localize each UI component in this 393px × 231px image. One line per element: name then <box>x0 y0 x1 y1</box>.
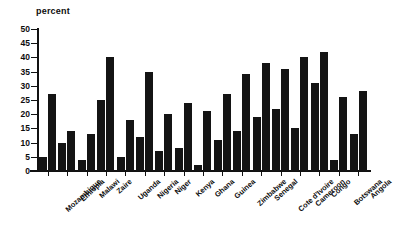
x-tick-mark <box>261 172 262 176</box>
x-tick-label: Kenya <box>193 177 216 199</box>
y-tick-label: 10 <box>0 139 30 147</box>
bar <box>48 94 56 171</box>
x-tick-mark <box>242 172 243 176</box>
bar <box>339 97 347 171</box>
bar <box>58 143 66 171</box>
y-tick-mark <box>31 72 37 73</box>
bar-group <box>330 29 349 171</box>
bar <box>78 160 86 171</box>
x-tick-mark <box>222 172 223 176</box>
bar <box>233 131 241 171</box>
bar-group <box>214 29 233 171</box>
bar <box>164 114 172 171</box>
plot-area <box>38 29 368 171</box>
y-tick-mark <box>31 86 37 87</box>
y-tick-label: 25 <box>0 96 30 104</box>
bar-group <box>175 29 194 171</box>
x-tick-label: Guinea <box>233 177 258 200</box>
bar-group <box>272 29 291 171</box>
bar <box>145 72 153 171</box>
bar <box>203 111 211 171</box>
bar-group <box>233 29 252 171</box>
bar <box>136 137 144 171</box>
x-tick-mark <box>145 172 146 176</box>
y-tick-label: 15 <box>0 124 30 132</box>
bar <box>39 157 47 171</box>
bar <box>97 100 105 171</box>
x-tick-mark <box>67 172 68 176</box>
y-tick-mark <box>31 171 37 172</box>
bar <box>320 52 328 171</box>
y-tick-label: 50 <box>0 25 30 33</box>
x-tick-label: Ghana <box>213 177 236 199</box>
y-tick-mark <box>31 29 37 30</box>
bar <box>359 91 367 171</box>
y-tick-label: 30 <box>0 82 30 90</box>
bar <box>311 83 319 171</box>
x-tick-mark <box>164 172 165 176</box>
x-tick-mark <box>358 172 359 176</box>
x-tick-mark <box>319 172 320 176</box>
x-tick-mark <box>281 172 282 176</box>
x-tick-mark <box>48 172 49 176</box>
bar <box>155 151 163 171</box>
y-tick-label: 20 <box>0 110 30 118</box>
y-tick-mark <box>31 157 37 158</box>
bar-group <box>136 29 155 171</box>
bar-group <box>97 29 116 171</box>
x-tick-mark <box>87 172 88 176</box>
bar <box>253 117 261 171</box>
bar <box>350 134 358 171</box>
bar <box>272 109 280 171</box>
bar <box>214 140 222 171</box>
bar <box>300 57 308 171</box>
bar <box>184 103 192 171</box>
bar-group <box>58 29 77 171</box>
bar-group <box>117 29 136 171</box>
bar-group <box>155 29 174 171</box>
bar <box>223 94 231 171</box>
bar <box>281 69 289 171</box>
y-tick-mark <box>31 43 37 44</box>
bar <box>117 157 125 171</box>
x-tick-mark <box>203 172 204 176</box>
bar <box>194 165 202 171</box>
x-tick-mark <box>300 172 301 176</box>
y-tick-mark <box>31 143 37 144</box>
y-tick-label: 40 <box>0 53 30 61</box>
x-tick-mark <box>339 172 340 176</box>
bar <box>87 134 95 171</box>
bar <box>175 148 183 171</box>
bar-group <box>78 29 97 171</box>
bar-group <box>350 29 369 171</box>
y-tick-mark <box>31 114 37 115</box>
x-tick-mark <box>184 172 185 176</box>
y-axis-unit-label: percent <box>36 6 70 16</box>
bar <box>126 120 134 171</box>
y-tick-mark <box>31 128 37 129</box>
y-tick-label: 45 <box>0 39 30 47</box>
bar <box>330 160 338 171</box>
x-tick-mark <box>125 172 126 176</box>
bar-group <box>291 29 310 171</box>
bar <box>67 131 75 171</box>
y-tick-label: 0 <box>0 167 30 175</box>
x-tick-mark <box>106 172 107 176</box>
y-tick-mark <box>31 57 37 58</box>
bar <box>242 74 250 171</box>
y-tick-mark <box>31 100 37 101</box>
bar-group <box>253 29 272 171</box>
bar <box>106 57 114 171</box>
bar-group <box>39 29 58 171</box>
bar-group <box>311 29 330 171</box>
bar-group <box>194 29 213 171</box>
bar <box>262 63 270 171</box>
y-tick-label: 35 <box>0 68 30 76</box>
bar <box>291 128 299 171</box>
y-tick-label: 5 <box>0 153 30 161</box>
